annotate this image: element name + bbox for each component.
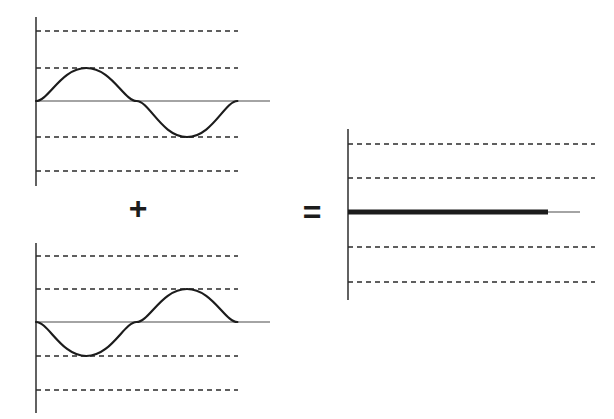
- sine-curve: [36, 68, 237, 137]
- sum-result-plot: [340, 120, 614, 310]
- second-waveform-plot: [0, 222, 300, 419]
- first-waveform-panel: [0, 0, 300, 200]
- waveform-cancellation-figure: + =: [0, 0, 614, 419]
- plus-operator: +: [118, 192, 158, 224]
- first-waveform-plot: [0, 0, 300, 200]
- second-waveform-panel: [0, 222, 300, 419]
- sum-result-panel: [340, 120, 614, 310]
- equals-operator: =: [292, 196, 332, 228]
